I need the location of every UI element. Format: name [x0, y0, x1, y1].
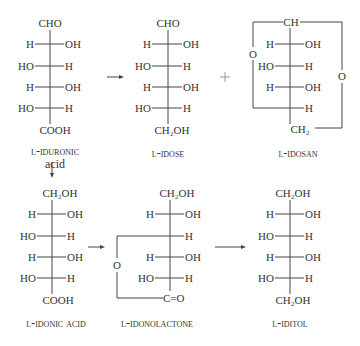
- idonolactone-name: l-idonolactone: [121, 316, 193, 330]
- idonolactone-row2-right: H: [185, 230, 193, 242]
- idonic-name: l-idonic acid: [26, 316, 85, 330]
- iduronic-name-line1: l-iduronic: [31, 144, 79, 158]
- idose-row3-left: H: [143, 81, 151, 93]
- idonic-row3-left: H: [28, 251, 36, 263]
- idosan-ring-oxygen-right: O: [338, 70, 346, 82]
- iduronic-bottom-group: COOH: [39, 124, 70, 136]
- idonic-row4-left: HO: [20, 272, 36, 284]
- idonic-row2-left: HO: [20, 230, 36, 242]
- iduronic-name-line2: acid: [45, 157, 65, 171]
- idose-name: l-idose: [152, 146, 184, 160]
- idosan-ring-oxygen-left: O: [249, 48, 257, 60]
- idose-row2-left: HO: [135, 60, 151, 72]
- idonic-row2-right: H: [67, 230, 75, 242]
- idosan-row1-left: H: [266, 38, 274, 50]
- iditol-bottom-group: CH₂OH: [275, 294, 310, 306]
- idosan-row4-right: H: [305, 102, 313, 114]
- idosan-row3-left: H: [266, 81, 274, 93]
- idosan-name: l-idosan: [278, 146, 317, 160]
- iduronic-row1-left: H: [26, 38, 34, 50]
- iditol-row4-right: H: [305, 272, 313, 284]
- idonolactone-row1-left: H: [146, 208, 154, 220]
- idose-row3-right: OH: [183, 81, 199, 93]
- idose-row4-left: HO: [135, 102, 151, 114]
- idosan-top-group: CH: [283, 16, 298, 28]
- idosan-row1-right: OH: [305, 38, 321, 50]
- iduronic-row4-left: HO: [18, 102, 34, 114]
- iduronic-row2-right: H: [65, 60, 73, 72]
- iduronic-row3-right: OH: [65, 81, 81, 93]
- iduronic-row1-right: OH: [65, 38, 81, 50]
- idonolactone-top-group: CH₂OH: [159, 187, 194, 199]
- iditol-name: l-iditol: [272, 316, 307, 330]
- iditol-row4-left: HO: [258, 272, 274, 284]
- idonolactone-bottom-group: C=O: [163, 292, 184, 304]
- idonolactone-row4-left: HO: [138, 272, 154, 284]
- iditol-row3-left: H: [266, 251, 274, 263]
- idonolactone-ring-oxygen: O: [113, 259, 121, 271]
- idonolactone-row4-right: H: [185, 272, 193, 284]
- idosan-row2-right: H: [305, 60, 313, 72]
- idonolactone-row3-right: OH: [185, 251, 201, 263]
- idonic-row1-right: OH: [67, 208, 83, 220]
- idosan-row3-right: OH: [305, 81, 321, 93]
- idosan-row2-left: HO: [258, 60, 274, 72]
- iditol-top-group: CH₂OH: [275, 187, 310, 199]
- idose-row4-right: H: [183, 102, 191, 114]
- idonic-top-group: CH₂OH: [42, 187, 77, 199]
- idose-bottom-group: CH₂OH: [154, 124, 189, 136]
- idose-row1-left: H: [143, 38, 151, 50]
- idonic-row4-right: H: [67, 272, 75, 284]
- iditol-row2-left: HO: [258, 230, 274, 242]
- idosan-bottom-group: CH₂: [290, 123, 309, 135]
- idonolactone-row1-right: OH: [185, 208, 201, 220]
- iditol-row2-right: H: [305, 230, 313, 242]
- idose-row2-right: H: [183, 60, 191, 72]
- iditol-row1-left: H: [266, 208, 274, 220]
- idonic-row3-right: OH: [67, 251, 83, 263]
- idose-row1-right: OH: [183, 38, 199, 50]
- iduronic-top-group: CHO: [38, 17, 61, 29]
- iduronic-row4-right: H: [65, 102, 73, 114]
- iditol-row1-right: OH: [305, 208, 321, 220]
- idonic-row1-left: H: [28, 208, 36, 220]
- iduronic-row2-left: HO: [18, 60, 34, 72]
- iditol-row3-right: OH: [305, 251, 321, 263]
- iduronic-row3-left: H: [26, 81, 34, 93]
- idonolactone-row3-left: H: [146, 251, 154, 263]
- idonic-bottom-group: COOH: [42, 294, 73, 306]
- idose-top-group: CHO: [156, 17, 179, 29]
